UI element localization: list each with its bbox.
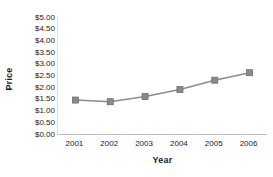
x-axis-tick-labels: 200120022003200420052006 — [57, 139, 268, 151]
x-axis-tick-label: 2006 — [229, 139, 269, 149]
data-point-marker — [247, 70, 253, 76]
plot-area — [57, 17, 267, 135]
y-axis-title-label: Price — [4, 67, 14, 90]
price-by-year-line-chart: Price $5.00$4.50$4.00$3.50$3.00$2.50$2.0… — [0, 0, 273, 177]
y-axis-tick-label: $3.00 — [17, 59, 55, 68]
y-axis-tick-label: $2.00 — [17, 83, 55, 92]
data-point-marker — [212, 77, 218, 83]
y-axis-tick-label: $1.00 — [17, 106, 55, 115]
y-axis-tick-label: $2.50 — [17, 71, 55, 80]
y-axis-tick-label: $1.50 — [17, 94, 55, 103]
plot-svg — [58, 17, 267, 135]
y-axis-title: Price — [2, 46, 16, 112]
y-axis-tick-label: $3.50 — [17, 48, 55, 57]
y-axis-tick-label: $0.00 — [17, 130, 55, 139]
data-line-price — [75, 73, 249, 102]
y-axis-tick-label: $0.50 — [17, 118, 55, 127]
y-axis-tick-labels: $5.00$4.50$4.00$3.50$3.00$2.50$2.00$1.50… — [17, 12, 55, 138]
y-axis-tick-label: $5.00 — [17, 13, 55, 22]
data-point-markers — [72, 70, 252, 105]
y-axis-tick-label: $4.00 — [17, 36, 55, 45]
data-point-marker — [72, 97, 78, 103]
y-axis-tick-label: $4.50 — [17, 24, 55, 33]
data-point-marker — [142, 94, 148, 100]
x-axis-title-label: Year — [153, 155, 173, 165]
x-axis-title: Year — [57, 155, 268, 165]
data-point-marker — [107, 99, 113, 105]
data-point-marker — [177, 87, 183, 93]
